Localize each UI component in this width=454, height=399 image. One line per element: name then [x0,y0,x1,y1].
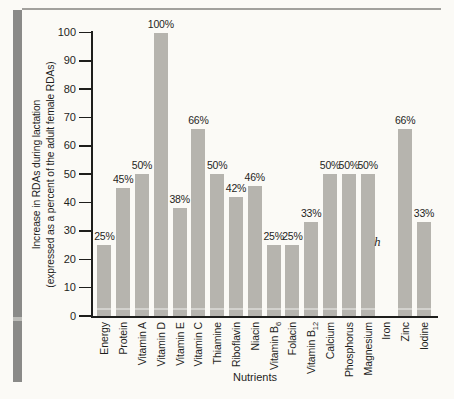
x-tick-label: Protein [117,322,129,355]
x-tick-label: Iron [380,322,392,340]
x-tick-label: Calcium [324,322,336,359]
x-tick-label: Zinc [399,322,411,341]
x-axis-labels: EnergyProteinVitamin AVitamin DVitamin E… [0,0,454,399]
x-tick-label: Vitamin A [136,322,148,365]
figure-page: Increase in RDAs during lactation (expre… [0,0,454,399]
x-tick-label: Vitamin D [155,322,167,366]
x-tick-label: Vitamin E [174,322,186,366]
x-tick-label: Phosphorus [343,322,355,377]
x-tick-label: Folacin [286,322,298,355]
x-axis-title: Nutrients [215,371,295,384]
x-tick-label: Energy [98,322,110,355]
x-tick-label: Vitamin B12 [305,322,322,374]
x-tick-label: Magnesium [362,322,374,375]
x-tick-label: Vitamin C [192,322,204,366]
x-tick-label: Riboflavin [230,322,242,367]
bar-chart: Increase in RDAs during lactation (expre… [0,0,454,399]
x-tick-label: Thiamine [211,322,223,364]
x-tick-label: Niacin [249,322,261,351]
x-tick-label: Iodine [418,322,430,350]
x-tick-label: Vitamin B6 [268,322,285,370]
